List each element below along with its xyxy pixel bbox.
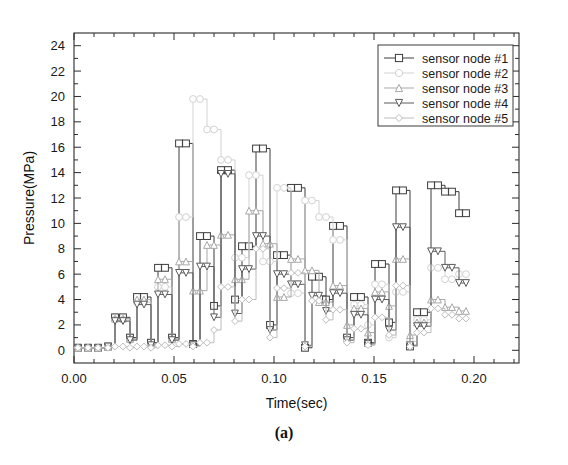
series-marker-circle xyxy=(323,214,330,221)
series-marker-circle xyxy=(463,271,470,278)
series-marker-diamond xyxy=(421,329,428,336)
series-marker-diamond xyxy=(449,311,456,318)
y-axis-tick-label: 14 xyxy=(51,165,65,180)
series-marker-square xyxy=(337,223,344,230)
chart-canvas: 0246810121416182022240.000.050.100.150.2… xyxy=(0,0,568,465)
series-marker-square xyxy=(253,145,260,152)
series-marker-diamond xyxy=(428,305,435,312)
series-marker-diamond xyxy=(211,327,218,334)
series-marker-diamond xyxy=(295,269,302,276)
series-marker-square xyxy=(395,54,402,61)
series-marker-circle xyxy=(183,214,190,221)
series-marker-diamond xyxy=(218,283,225,290)
series-marker-square xyxy=(183,140,190,147)
legend-label: sensor node #3 xyxy=(422,82,508,96)
series-layer xyxy=(75,96,470,352)
series-marker-diamond xyxy=(169,343,176,350)
x-axis-tick-label: 0.20 xyxy=(461,371,486,386)
y-axis-tick-label: 0 xyxy=(58,343,65,358)
series-marker-circle xyxy=(379,281,386,288)
figure-caption: (a) xyxy=(0,424,568,442)
y-axis-tick-label: 18 xyxy=(51,114,65,129)
series-marker-square xyxy=(260,145,267,152)
series-marker-circle xyxy=(162,283,169,290)
series-marker-diamond xyxy=(309,297,316,304)
x-axis-tick-label: 0.10 xyxy=(261,371,286,386)
series-marker-diamond xyxy=(358,325,365,332)
series-marker-diamond xyxy=(463,315,470,322)
series-marker-circle xyxy=(449,276,456,283)
series-marker-square xyxy=(421,309,428,316)
y-axis-tick-label: 4 xyxy=(58,292,65,307)
series-marker-square xyxy=(372,261,379,268)
series-marker-diamond xyxy=(393,282,400,289)
series-marker-circle xyxy=(395,69,402,76)
y-axis-tick-label: 24 xyxy=(51,38,65,53)
series-marker-diamond xyxy=(183,341,190,348)
legend-label: sensor node #1 xyxy=(422,52,508,66)
series-marker-circle xyxy=(442,276,449,283)
series-marker-square xyxy=(414,309,421,316)
series-marker-circle xyxy=(239,254,246,261)
y-axis-tick-label: 22 xyxy=(51,64,65,79)
series-marker-diamond xyxy=(379,314,386,321)
series-marker-circle xyxy=(302,197,309,204)
series-marker-circle xyxy=(330,236,337,243)
series-marker-circle xyxy=(197,96,204,103)
series-marker-square xyxy=(162,264,169,271)
series-marker-square xyxy=(351,294,358,301)
legend-label: sensor node #2 xyxy=(422,67,508,81)
series-marker-square xyxy=(155,264,162,271)
y-axis-title: Pressure(MPa) xyxy=(21,151,37,245)
series-marker-circle xyxy=(316,214,323,221)
series-marker-square xyxy=(309,273,316,280)
series-marker-square xyxy=(400,187,407,194)
x-axis-tick-label: 0.15 xyxy=(361,371,386,386)
series-marker-diamond xyxy=(267,334,274,341)
figure-panel: 0246810121416182022240.000.050.100.150.2… xyxy=(0,0,568,465)
series-marker-square xyxy=(435,182,442,189)
series-marker-diamond xyxy=(232,318,239,325)
series-marker-square xyxy=(176,140,183,147)
y-axis-tick-label: 6 xyxy=(58,267,65,282)
series-marker-diamond xyxy=(141,343,148,350)
series-marker-diamond xyxy=(120,343,127,350)
series-marker-square xyxy=(358,294,365,301)
series-marker-circle xyxy=(260,258,267,265)
y-axis-tick-label: 10 xyxy=(51,216,65,231)
series-marker-diamond xyxy=(246,296,253,303)
legend-label: sensor node #4 xyxy=(422,97,508,111)
series-marker-circle xyxy=(274,184,281,191)
series-marker-square xyxy=(281,252,288,259)
x-axis-tick-label: 0.05 xyxy=(161,371,186,386)
series-marker-square xyxy=(428,182,435,189)
series-marker-diamond xyxy=(442,311,449,318)
series-marker-circle xyxy=(281,184,288,191)
series-marker-circle xyxy=(225,157,232,164)
series-marker-diamond xyxy=(330,306,337,313)
series-marker-diamond xyxy=(127,344,134,351)
y-axis-tick-label: 8 xyxy=(58,241,65,256)
legend-layer: sensor node #1sensor node #2sensor node … xyxy=(378,45,513,126)
series-marker-square xyxy=(449,188,456,195)
series-marker-square xyxy=(239,243,246,250)
series-marker-square xyxy=(393,187,400,194)
series-marker-diamond xyxy=(337,306,344,313)
legend-label: sensor node #5 xyxy=(422,112,508,126)
series-marker-diamond xyxy=(112,343,119,350)
series-marker-circle xyxy=(176,214,183,221)
y-axis-tick-label: 12 xyxy=(51,191,65,206)
series-marker-square xyxy=(463,210,470,217)
y-axis-tick-label: 2 xyxy=(58,317,65,332)
series-marker-square xyxy=(197,233,204,240)
series-line xyxy=(78,99,466,348)
series-marker-square xyxy=(204,233,211,240)
series-marker-square xyxy=(295,184,302,191)
series-marker-diamond xyxy=(274,285,281,292)
series-marker-circle xyxy=(218,157,225,164)
series-marker-circle xyxy=(253,172,260,179)
x-axis-title: Time(sec) xyxy=(266,395,328,411)
series-marker-square xyxy=(379,261,386,268)
series-marker-circle xyxy=(295,290,302,297)
series-marker-diamond xyxy=(225,283,232,290)
